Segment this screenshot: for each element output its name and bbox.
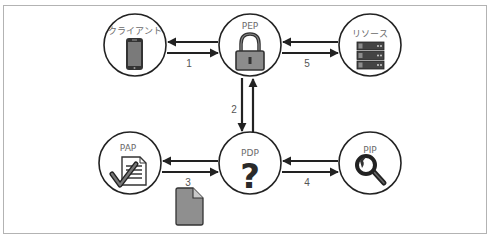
node-pdp: PDP ? [219, 132, 281, 196]
edge-pep-resource [282, 42, 338, 53]
node-label-pap: PAP [120, 143, 137, 153]
edge-client-pep [167, 42, 218, 53]
edge-pdp-pip [282, 161, 338, 172]
edge-label-3: 3 [185, 177, 191, 188]
edge-pap-pdp [162, 161, 218, 172]
question-mark-icon: ? [240, 156, 260, 196]
node-label-client: クライアント [108, 26, 162, 36]
edge-label-2: 2 [231, 104, 237, 115]
node-pap: PAP [99, 132, 161, 194]
node-client: クライアント [104, 14, 166, 76]
architecture-diagram: 1 5 2 3 4 クライアント PEP [0, 0, 491, 239]
node-label-pep: PEP [242, 21, 259, 31]
policy-document-icon [176, 188, 203, 225]
edge-label-1: 1 [186, 58, 192, 69]
node-pep: PEP [219, 14, 281, 76]
node-resource: リソース [339, 14, 401, 76]
edge-label-5: 5 [304, 58, 310, 69]
edge-label-4: 4 [304, 177, 310, 188]
smartphone-icon [126, 38, 143, 70]
server-rack-icon [357, 42, 384, 69]
edge-pep-pdp [242, 78, 253, 132]
node-label-resource: リソース [352, 29, 388, 39]
node-pip: PIP [339, 132, 401, 194]
node-label-pip: PIP [363, 145, 377, 155]
